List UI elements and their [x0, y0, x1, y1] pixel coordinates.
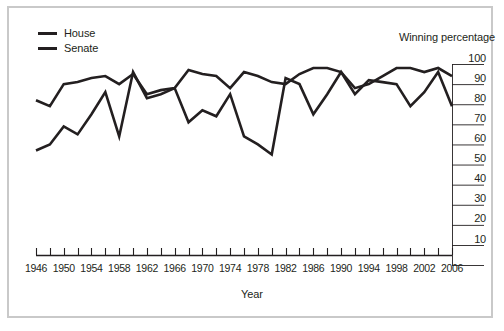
x-tick-label: 2006 — [435, 262, 469, 274]
y-tick-label: 100 — [460, 52, 486, 64]
y-tick-label: 10 — [460, 233, 486, 245]
x-axis-title: Year — [0, 288, 504, 300]
legend-item-senate: Senate — [38, 41, 188, 56]
y-tick-label: 80 — [460, 92, 486, 104]
legend-label-senate: Senate — [64, 43, 98, 54]
y-tick-label: 90 — [460, 72, 486, 84]
y-tick-label: 20 — [460, 212, 486, 224]
y-tick-label: 40 — [460, 172, 486, 184]
chart-figure: House Senate Winning percentage Year 100… — [0, 0, 504, 331]
y-tick-label: 50 — [460, 152, 486, 164]
legend-swatch-house — [38, 32, 57, 35]
y-tick-label: 30 — [460, 192, 486, 204]
y-tick-label: 60 — [460, 132, 486, 144]
y-tick-label: 70 — [460, 112, 486, 124]
legend-item-house: House — [38, 26, 188, 41]
legend-label-house: House — [64, 28, 95, 39]
legend-swatch-senate — [38, 47, 57, 50]
y-axis-title: Winning percentage — [399, 31, 495, 43]
chart-legend: House Senate — [38, 26, 188, 56]
